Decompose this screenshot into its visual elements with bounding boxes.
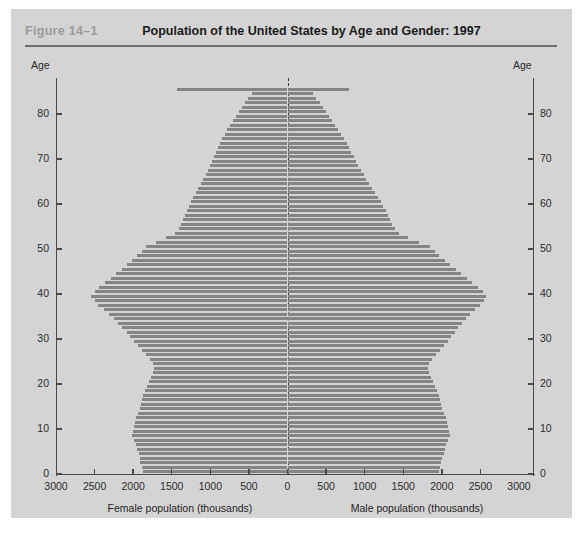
bar-male-age-63 xyxy=(288,187,372,190)
bar-male-age-13 xyxy=(288,412,445,415)
y-tick-label-right-60: 60 xyxy=(540,197,552,209)
bar-male-age-73 xyxy=(288,142,347,145)
bar-male-age-4 xyxy=(288,452,444,455)
y-tick-label-right-10: 10 xyxy=(540,422,552,434)
bar-male-age-53 xyxy=(288,232,400,235)
bar-female-age-20 xyxy=(149,380,288,383)
bar-female-age-75 xyxy=(225,133,288,136)
bar-male-age-56 xyxy=(288,218,390,221)
bar-female-age-67 xyxy=(208,169,287,172)
bar-female-age-34 xyxy=(114,317,288,320)
bar-female-age-50 xyxy=(146,245,288,248)
y-tick-right-10 xyxy=(528,428,533,429)
x-tick-label-11: 2500 xyxy=(460,480,500,492)
y-axis-title-left: Age xyxy=(31,59,50,71)
bar-female-age-10 xyxy=(134,425,287,428)
bar-female-age-9 xyxy=(133,430,287,433)
y-tick-left-40 xyxy=(57,293,62,294)
bar-female-age-31 xyxy=(127,331,288,334)
bar-male-age-76 xyxy=(288,128,339,131)
y-tick-right-0 xyxy=(528,473,533,474)
bar-female-age-53 xyxy=(175,232,288,235)
bar-male-age-71 xyxy=(288,151,352,154)
y-tick-label-right-30: 30 xyxy=(540,332,552,344)
bar-male-age-27 xyxy=(288,349,441,352)
bar-male-age-12 xyxy=(288,416,446,419)
bar-female-age-72 xyxy=(218,146,287,149)
bar-female-age-8 xyxy=(132,434,287,437)
bar-male-age-16 xyxy=(288,398,440,401)
bar-female-age-28 xyxy=(138,344,288,347)
bar-female-age-85 xyxy=(177,88,287,91)
bar-female-age-12 xyxy=(136,416,287,419)
x-tick-8 xyxy=(364,469,365,474)
y-tick-left-70 xyxy=(57,158,62,159)
bar-male-age-57 xyxy=(288,214,388,217)
x-tick-10 xyxy=(441,469,442,474)
bar-female-age-35 xyxy=(109,313,287,316)
bar-female-age-43 xyxy=(111,277,288,280)
y-tick-right-30 xyxy=(528,338,533,339)
bar-male-age-39 xyxy=(288,295,487,298)
y-tick-left-10 xyxy=(57,428,62,429)
bar-female-age-64 xyxy=(201,182,287,185)
bar-male-age-61 xyxy=(288,196,378,199)
bar-female-age-38 xyxy=(95,299,288,302)
plot-area: 0010102020303040405050606070708080 30002… xyxy=(56,78,534,475)
bar-female-age-0 xyxy=(143,470,288,473)
bar-female-age-45 xyxy=(122,268,288,271)
bar-female-age-2 xyxy=(140,461,287,464)
bar-female-age-84 xyxy=(252,92,288,95)
x-tick-7 xyxy=(325,469,326,474)
bar-female-age-21 xyxy=(151,376,288,379)
bar-female-age-69 xyxy=(212,160,288,163)
bar-male-age-40 xyxy=(288,290,484,293)
bar-female-age-18 xyxy=(145,389,287,392)
x-tick-3 xyxy=(171,469,172,474)
x-tick-label-0: 3000 xyxy=(36,480,76,492)
bar-male-age-8 xyxy=(288,434,450,437)
bar-male-age-58 xyxy=(288,209,386,212)
x-tick-label-12: 3000 xyxy=(499,480,539,492)
bar-female-age-59 xyxy=(189,205,288,208)
bar-female-age-58 xyxy=(187,209,288,212)
bar-male-age-23 xyxy=(288,367,428,370)
bar-female-age-82 xyxy=(245,101,287,104)
bar-female-age-76 xyxy=(227,128,287,131)
bar-male-age-28 xyxy=(288,344,445,347)
bar-male-age-51 xyxy=(288,241,419,244)
bar-male-age-5 xyxy=(288,448,445,451)
x-tick-label-7: 500 xyxy=(306,480,346,492)
x-tick-label-3: 1500 xyxy=(152,480,192,492)
x-tick-4 xyxy=(210,469,211,474)
bar-female-age-73 xyxy=(220,142,288,145)
x-tick-label-6: 0 xyxy=(268,480,308,492)
x-tick-1 xyxy=(94,469,95,474)
bar-female-age-4 xyxy=(139,452,288,455)
bar-male-age-83 xyxy=(288,97,317,100)
bar-male-age-9 xyxy=(288,430,449,433)
y-tick-label-right-20: 20 xyxy=(540,377,552,389)
bar-male-age-52 xyxy=(288,236,409,239)
bar-female-age-62 xyxy=(196,191,288,194)
bar-female-age-27 xyxy=(142,349,288,352)
bar-male-age-14 xyxy=(288,407,443,410)
bar-male-age-35 xyxy=(288,313,471,316)
x-tick-9 xyxy=(403,469,404,474)
bar-male-age-64 xyxy=(288,182,369,185)
y-tick-left-20 xyxy=(57,383,62,384)
bar-female-age-6 xyxy=(136,443,287,446)
bar-female-age-15 xyxy=(141,403,288,406)
bar-female-age-54 xyxy=(179,227,287,230)
bar-male-age-42 xyxy=(288,281,473,284)
bar-male-age-66 xyxy=(288,173,364,176)
bar-female-age-56 xyxy=(183,218,287,221)
bar-female-age-25 xyxy=(150,358,287,361)
bar-female-age-7 xyxy=(134,439,287,442)
bar-male-age-74 xyxy=(288,137,344,140)
bar-female-age-13 xyxy=(138,412,288,415)
bar-female-age-17 xyxy=(143,394,287,397)
bar-female-age-46 xyxy=(127,263,288,266)
x-tick-label-8: 1000 xyxy=(345,480,385,492)
bar-male-age-50 xyxy=(288,245,431,248)
